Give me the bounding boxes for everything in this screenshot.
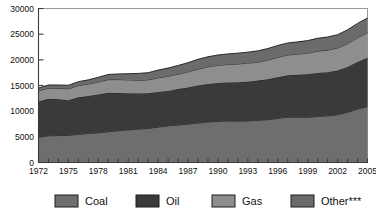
legend-label: Oil	[166, 195, 179, 207]
legend-swatch	[55, 195, 78, 207]
x-tick-label: 1972	[29, 166, 48, 176]
legend-label: Other***	[321, 195, 362, 207]
legend-swatch	[212, 195, 235, 207]
y-tick-label: 5000	[15, 132, 34, 142]
x-tick-label: 1981	[119, 166, 138, 176]
x-tick-label: 2005	[358, 166, 376, 176]
legend-label: Gas	[242, 195, 263, 207]
legend-swatch	[291, 195, 314, 207]
y-tick-label: 20000	[10, 55, 34, 65]
y-tick-label: 10000	[10, 106, 34, 116]
x-tick-label: 1984	[149, 166, 168, 176]
x-tick-label: 1990	[208, 166, 227, 176]
legend-item-other[interactable]: Other***	[291, 195, 362, 207]
x-tick-label: 1996	[268, 166, 287, 176]
chart-canvas: 050001000015000200002500030000 197219751…	[0, 0, 376, 216]
legend-item-oil[interactable]: Oil	[136, 195, 179, 207]
x-tick-label: 2002	[328, 166, 347, 176]
legend-swatch	[136, 195, 159, 207]
legend-label: Coal	[85, 195, 108, 207]
y-tick-label: 25000	[10, 29, 34, 39]
x-tick-label: 1993	[238, 166, 257, 176]
x-tick-label: 1987	[179, 166, 198, 176]
y-tick-label: 15000	[10, 81, 34, 91]
stacked-area-chart: 050001000015000200002500030000 197219751…	[0, 0, 376, 216]
x-tick-label: 1999	[298, 166, 317, 176]
y-tick-label: 30000	[10, 4, 34, 14]
x-tick-label: 1975	[59, 166, 78, 176]
x-tick-label: 1978	[89, 166, 108, 176]
